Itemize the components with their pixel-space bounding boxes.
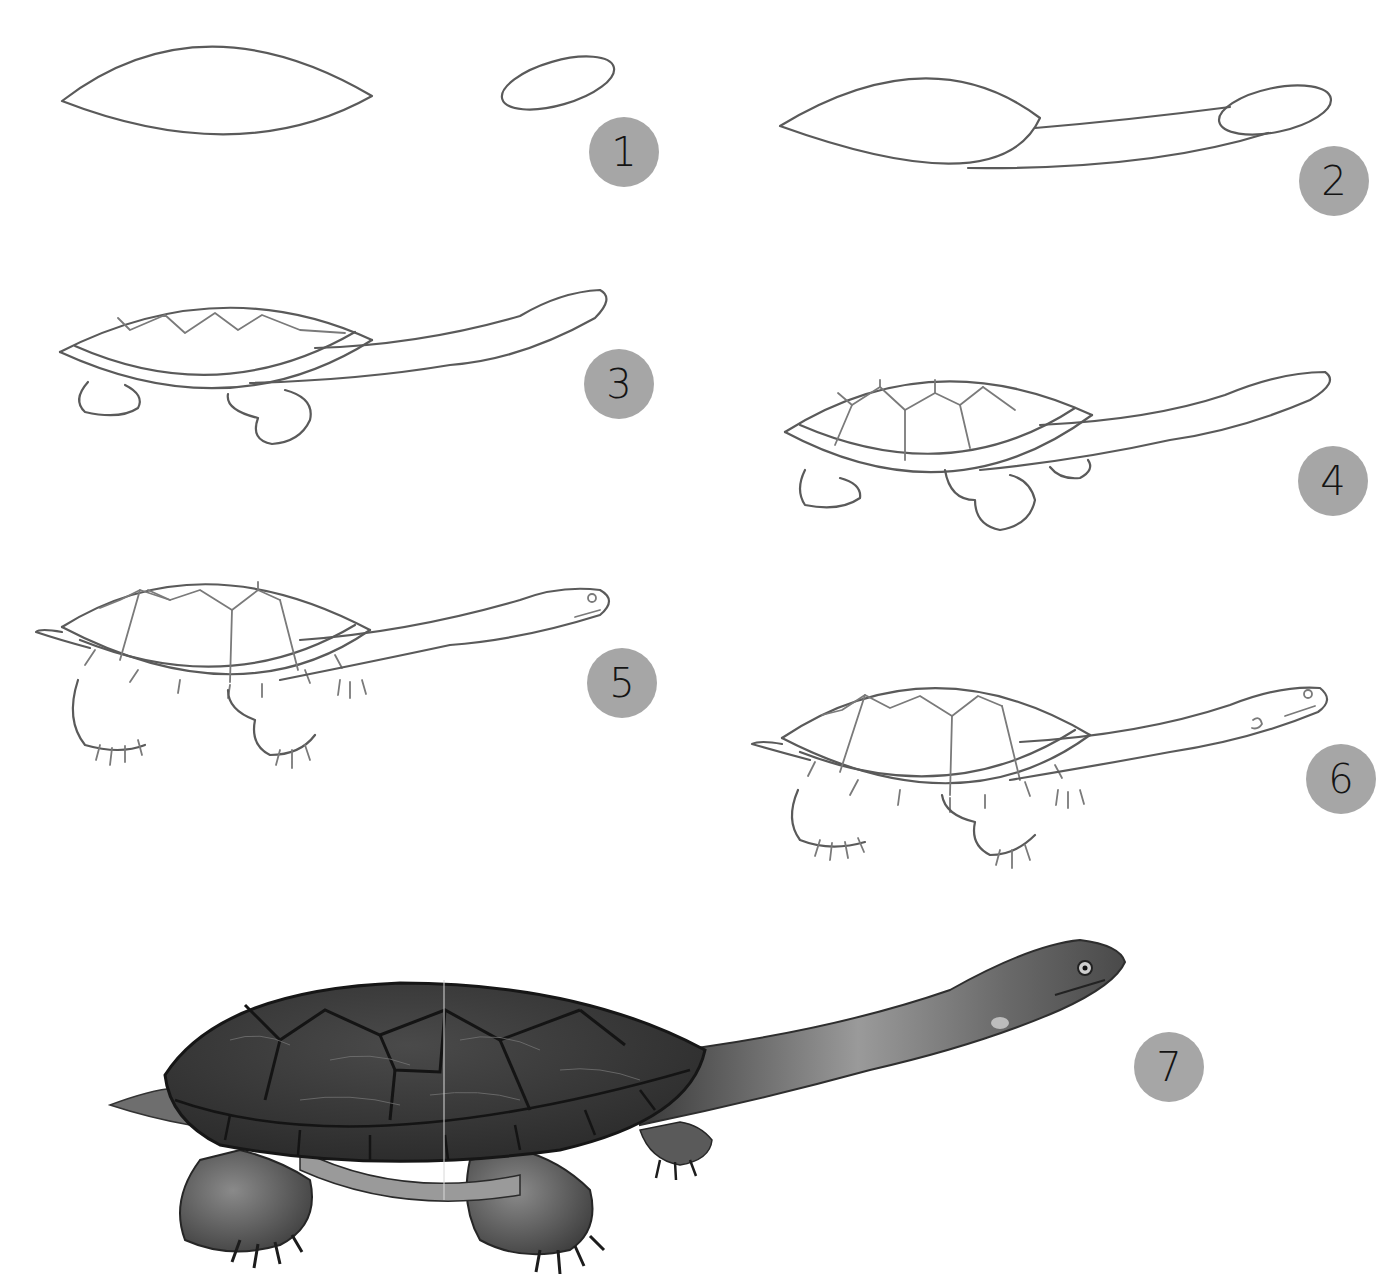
eye-pupil xyxy=(1083,966,1088,971)
tutorial-canvas: 1 2 3 xyxy=(0,0,1394,1286)
neck xyxy=(640,940,1125,1125)
step-number: 7 xyxy=(1156,1047,1181,1087)
far-leg xyxy=(640,1122,712,1165)
far-claws xyxy=(656,1160,696,1180)
front-leg xyxy=(467,1150,593,1254)
ear-mark xyxy=(991,1017,1009,1029)
step-badge-7: 7 xyxy=(1134,1032,1204,1102)
